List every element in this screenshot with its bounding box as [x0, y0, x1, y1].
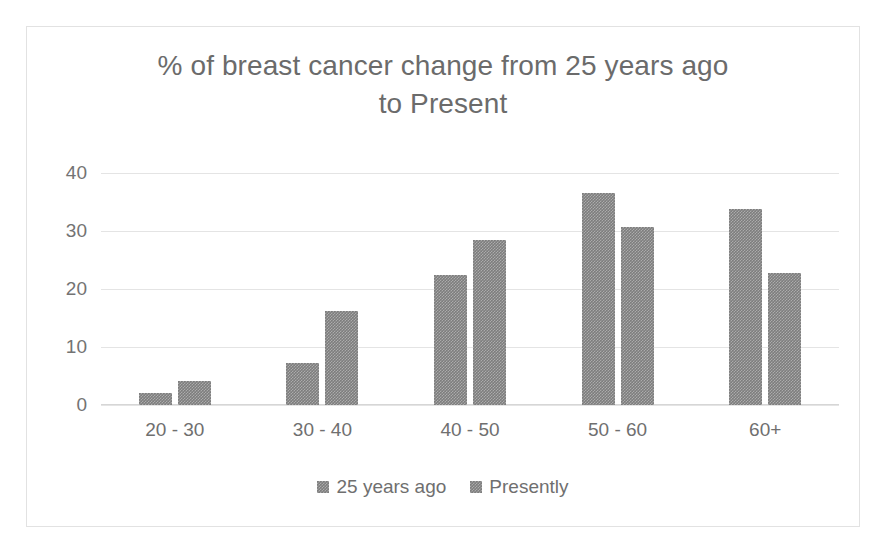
legend-swatch-icon [470, 481, 482, 493]
bar [325, 311, 358, 405]
chart-container: % of breast cancer change from 25 years … [26, 26, 860, 527]
y-tick-label: 30 [66, 220, 87, 242]
bar-group [582, 173, 654, 405]
legend-item[interactable]: Presently [470, 476, 568, 498]
bar [768, 273, 801, 405]
bar [473, 240, 506, 405]
bar-group [434, 173, 506, 405]
y-tick-label: 40 [66, 162, 87, 184]
bar [729, 209, 762, 405]
chart-legend: 25 years agoPresently [27, 476, 859, 498]
x-tick-label: 30 - 40 [267, 419, 377, 441]
x-tick-label: 60+ [710, 419, 820, 441]
legend-label: 25 years ago [336, 476, 446, 498]
y-tick-label: 20 [66, 278, 87, 300]
x-tick-label: 50 - 60 [563, 419, 673, 441]
bar-group [729, 173, 801, 405]
plot-area: 010203040 20 - 3030 - 4040 - 5050 - 6060… [101, 173, 839, 405]
bar [178, 381, 211, 405]
bar [582, 193, 615, 405]
bar [621, 227, 654, 405]
x-tick-label: 20 - 30 [120, 419, 230, 441]
chart-title: % of breast cancer change from 25 years … [27, 47, 859, 123]
y-tick-label: 10 [66, 336, 87, 358]
y-tick-label: 0 [76, 394, 87, 416]
legend-label: Presently [489, 476, 568, 498]
bar [434, 275, 467, 405]
bar-group [286, 173, 358, 405]
x-tick-label: 40 - 50 [415, 419, 525, 441]
gridline [101, 405, 839, 406]
bar [286, 363, 319, 405]
bar [139, 393, 172, 405]
legend-swatch-icon [317, 481, 329, 493]
legend-item[interactable]: 25 years ago [317, 476, 446, 498]
bar-group [139, 173, 211, 405]
